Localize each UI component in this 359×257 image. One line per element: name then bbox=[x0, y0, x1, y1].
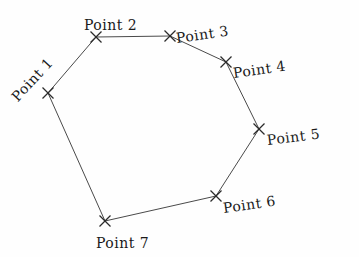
point-label-p7: Point 7 bbox=[96, 236, 149, 250]
vertex-marker-p7[interactable] bbox=[100, 216, 111, 227]
point-label-p2: Point 2 bbox=[84, 18, 137, 32]
polygon-edge bbox=[96, 36, 170, 37]
polygon-edge bbox=[105, 196, 216, 221]
polygon-edge bbox=[48, 93, 105, 221]
vertex-marker-p1[interactable] bbox=[43, 88, 54, 99]
vertex-marker-p6[interactable] bbox=[211, 191, 222, 202]
diagram-canvas: Point 1Point 2Point 3Point 4Point 5Point… bbox=[0, 0, 359, 257]
vertex-marker-p5[interactable] bbox=[254, 124, 265, 135]
polygon-edge bbox=[216, 129, 259, 196]
vertex-marker-p4[interactable] bbox=[221, 57, 232, 68]
